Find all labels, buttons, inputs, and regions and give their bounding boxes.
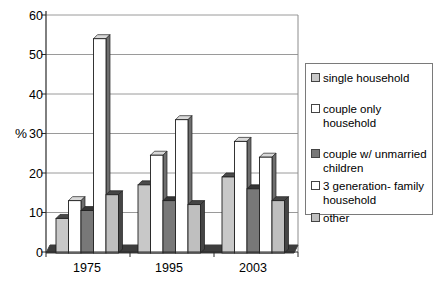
bar-other-1975	[106, 195, 119, 253]
bar-couple-w-unmarried-children-1975	[81, 211, 94, 253]
legend: single householdcouple only householdcou…	[305, 63, 433, 215]
legend-item-3-generation-family-household: 3 generation- family household	[311, 179, 430, 207]
legend-item-single-household: single household	[311, 71, 430, 85]
legend-item-other: other	[311, 211, 430, 225]
y-tick-label: 30	[29, 127, 43, 141]
bar-couple-only-household-2003	[235, 141, 248, 253]
bar-couple-w-unmarried-children-1995	[163, 201, 176, 253]
legend-swatch-couple-w-unmarried-children	[311, 149, 320, 158]
x-tick-label: 1975	[73, 261, 101, 275]
legend-label-couple-only-household: couple only household	[323, 102, 430, 130]
legend-swatch-single-household	[311, 73, 320, 82]
y-tick-label: 20	[29, 167, 43, 181]
bar-other-2003	[272, 201, 285, 253]
chart-canvas: 6050403020100%197519952003 single househ…	[0, 0, 444, 289]
y-tick-label: 10	[29, 206, 43, 220]
y-tick-label: 50	[29, 48, 43, 62]
bar-couple-only-household-1995	[151, 155, 164, 253]
y-tick-label: 0	[36, 246, 43, 260]
bar-side-other	[285, 197, 289, 253]
bar-side-other	[119, 191, 123, 253]
legend-swatch-couple-only-household	[311, 104, 320, 113]
bar-3-generation-family-household-2003	[260, 157, 273, 253]
legend-label-3-generation-family-household: 3 generation- family household	[323, 179, 430, 207]
legend-label-couple-w-unmarried-children: couple w/ unmarried children	[323, 147, 430, 175]
bar-single-household-1975	[56, 218, 69, 253]
bar-couple-w-unmarried-children-2003	[247, 189, 260, 253]
x-tick-label: 1995	[155, 261, 183, 275]
bar-3-generation-family-household-1975	[94, 39, 107, 253]
legend-label-single-household: single household	[323, 71, 409, 85]
percent-axis-label: %	[15, 126, 27, 141]
y-tick-label: 60	[29, 9, 43, 23]
legend-label-other: other	[323, 211, 349, 225]
legend-swatch-other	[311, 213, 320, 222]
x-tick-label: 2003	[239, 261, 267, 275]
legend-item-couple-only-household: couple only household	[311, 102, 430, 130]
legend-swatch-3-generation-family-household	[311, 181, 320, 190]
bar-other-1995	[188, 205, 201, 253]
bar-side-other	[201, 201, 205, 253]
bar-3-generation-family-household-1995	[176, 120, 189, 253]
legend-item-couple-w-unmarried-children: couple w/ unmarried children	[311, 147, 430, 175]
bar-couple-only-household-1975	[69, 201, 82, 253]
y-tick-label: 40	[29, 88, 43, 102]
bar-single-household-2003	[222, 177, 235, 253]
bar-single-household-1995	[138, 185, 151, 253]
